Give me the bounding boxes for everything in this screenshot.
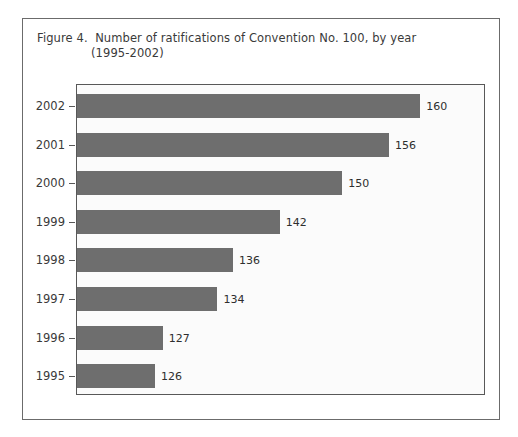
axis-tick-1999	[69, 222, 75, 223]
bar-row: 156	[77, 133, 484, 157]
axis-label-1997: 1997	[36, 292, 65, 306]
bar-2001[interactable]	[77, 133, 389, 157]
axis-tick-2001	[69, 145, 75, 146]
bar-value-label-1996: 127	[169, 331, 190, 344]
bar-value-label-1997: 134	[223, 293, 244, 306]
axis-label-1998: 1998	[36, 253, 65, 267]
axis-tick-1996	[69, 338, 75, 339]
bar-1999[interactable]	[77, 210, 280, 234]
axis-tick-1995	[69, 376, 75, 377]
bar-1996[interactable]	[77, 326, 163, 350]
bar-value-label-2000: 150	[348, 177, 369, 190]
bar-1997[interactable]	[77, 287, 217, 311]
axis-label-2001: 2001	[36, 138, 65, 152]
plot-area: 160156150142136134127126	[76, 84, 485, 395]
axis-label-1996: 1996	[36, 331, 65, 345]
axis-label-2000: 2000	[36, 176, 65, 190]
figure-frame: Figure 4. Number of ratifications of Con…	[22, 18, 500, 420]
caption-line-2: (1995-2002)	[37, 46, 477, 61]
bar-row: 136	[77, 248, 484, 272]
bar-value-label-1999: 142	[286, 215, 307, 228]
bar-value-label-1995: 126	[161, 370, 182, 383]
axis-tick-2000	[69, 183, 75, 184]
bar-row: 134	[77, 287, 484, 311]
bar-1995[interactable]	[77, 364, 155, 388]
bar-value-label-1998: 136	[239, 254, 260, 267]
bar-value-label-2002: 160	[426, 100, 447, 113]
axis-tick-2002	[69, 106, 75, 107]
caption-line-1: Figure 4. Number of ratifications of Con…	[37, 31, 477, 46]
axis-label-1995: 1995	[36, 369, 65, 383]
bar-row: 127	[77, 326, 484, 350]
axis-tick-1998	[69, 260, 75, 261]
bars-layer: 160156150142136134127126	[77, 85, 484, 394]
bar-row: 126	[77, 364, 484, 388]
figure-caption: Figure 4. Number of ratifications of Con…	[37, 31, 477, 61]
bar-2002[interactable]	[77, 94, 420, 118]
bar-row: 142	[77, 210, 484, 234]
axis-tick-1997	[69, 299, 75, 300]
bar-row: 150	[77, 171, 484, 195]
bar-value-label-2001: 156	[395, 138, 416, 151]
bar-1998[interactable]	[77, 248, 233, 272]
axis-label-2002: 2002	[36, 99, 65, 113]
axis-label-1999: 1999	[36, 215, 65, 229]
bar-row: 160	[77, 94, 484, 118]
bar-2000[interactable]	[77, 171, 342, 195]
